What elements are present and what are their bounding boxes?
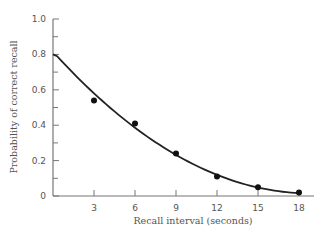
x-tick-label: 3 bbox=[91, 203, 97, 213]
data-point bbox=[255, 184, 261, 190]
tick-labels: 00.20.40.60.81.0369121518 bbox=[32, 14, 305, 213]
data-point bbox=[173, 151, 179, 157]
x-tick-label: 15 bbox=[252, 203, 263, 213]
data-point bbox=[214, 174, 220, 180]
data-point bbox=[296, 189, 302, 195]
x-tick-label: 12 bbox=[211, 203, 222, 213]
x-axis-label: Recall interval (seconds) bbox=[133, 215, 252, 226]
y-tick-label: 0.8 bbox=[32, 49, 47, 59]
x-tick-label: 9 bbox=[173, 203, 179, 213]
data-point bbox=[132, 120, 138, 126]
x-tick-label: 6 bbox=[132, 203, 138, 213]
x-tick-label: 18 bbox=[293, 203, 305, 213]
y-tick-label: 0.6 bbox=[32, 85, 47, 95]
data-points bbox=[91, 97, 302, 195]
chart: 00.20.40.60.81.0369121518 Recall interva… bbox=[0, 0, 327, 245]
axes bbox=[53, 19, 314, 196]
y-axis-label: Probability of correct recall bbox=[8, 40, 19, 173]
y-tick-label: 0.2 bbox=[32, 156, 46, 166]
y-tick-label: 1.0 bbox=[32, 14, 47, 24]
y-tick-label: 0.4 bbox=[32, 120, 47, 130]
fitted-curve bbox=[53, 54, 299, 193]
data-point bbox=[91, 97, 97, 103]
y-tick-label: 0 bbox=[40, 191, 46, 201]
